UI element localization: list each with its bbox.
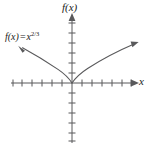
y-axis-arrowhead <box>69 13 76 21</box>
curve-right-branch <box>72 44 134 83</box>
curve-label-function: f(x) <box>5 31 19 42</box>
curve-label-exponent: 2/3 <box>31 30 39 37</box>
x-axis-label: x <box>139 76 144 87</box>
curve-label-equals: = <box>19 31 27 42</box>
curve-left-arrowhead <box>18 46 25 53</box>
y-axis-label: f(x) <box>62 2 77 13</box>
curve-equation-label: f(x)=x2/3 <box>5 32 39 42</box>
function-graph-figure: f(x) x f(x)=x2/3 <box>0 0 149 151</box>
curve-right-arrowhead <box>131 42 139 48</box>
x-axis-arrowhead <box>131 80 139 87</box>
curve-left-branch <box>23 48 73 83</box>
plot-canvas <box>0 0 149 151</box>
